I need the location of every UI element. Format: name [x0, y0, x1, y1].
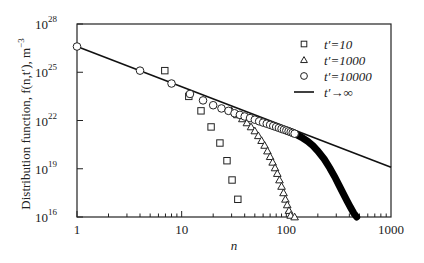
legend-label: t′=10	[324, 37, 353, 52]
circle-marker	[199, 97, 207, 105]
legend-label: t′=10000	[324, 69, 372, 84]
legend-item: t′=1000	[301, 53, 366, 68]
legend-label: t′→∞	[324, 85, 353, 100]
circle-marker	[168, 80, 176, 88]
y-axis-title: Distribution function, f(n,t′), m−3	[16, 38, 33, 210]
circle-marker	[301, 73, 308, 80]
series-square	[162, 67, 241, 202]
y-tick-label: 1028	[35, 14, 58, 32]
y-tick-label: 1022	[35, 111, 57, 129]
circle-marker	[136, 67, 144, 75]
triangle-marker	[301, 57, 308, 63]
y-tick-label: 1019	[35, 159, 58, 177]
square-marker	[217, 140, 223, 146]
triangle-marker	[276, 176, 284, 183]
y-axis-title-sup: −3	[16, 38, 26, 48]
circle-marker	[186, 90, 194, 98]
legend-item: t′=10000	[301, 69, 373, 84]
square-marker	[208, 124, 214, 130]
x-tick-label: 1	[74, 222, 81, 237]
circle-marker	[218, 105, 226, 113]
legend: t′=10t′=1000t′=10000t′→∞	[294, 37, 372, 100]
y-tick-label: 1016	[35, 207, 58, 225]
x-tick-label: 1000	[378, 222, 404, 237]
square-marker	[229, 177, 235, 183]
y-tick-label: 1025	[35, 62, 58, 80]
triangle-marker	[278, 183, 286, 190]
circle-marker	[73, 43, 81, 51]
svg-text:Distribution function, f(n,t′): Distribution function, f(n,t′), m−3	[16, 38, 33, 210]
y-axis-title-text: Distribution function, f(n,t′), m	[18, 48, 33, 210]
square-marker	[301, 41, 307, 47]
series-circle	[73, 43, 298, 138]
legend-item: t′=10	[301, 37, 353, 52]
triangle-marker	[282, 196, 290, 203]
circle-marker	[291, 130, 299, 138]
x-tick-label: 100	[277, 222, 297, 237]
square-marker	[162, 67, 168, 73]
chart: 1101001000 10161019102210251028 t′=10t′=…	[0, 0, 424, 263]
legend-label: t′=1000	[324, 53, 366, 68]
x-axis-title: n	[231, 238, 238, 253]
circle-marker	[209, 101, 217, 109]
square-marker	[235, 196, 241, 202]
triangle-marker	[280, 189, 288, 196]
x-tick-label: 10	[175, 222, 188, 237]
square-marker	[198, 108, 204, 114]
square-marker	[224, 158, 230, 164]
legend-item: t′→∞	[294, 85, 353, 100]
dense-circle-tail	[295, 134, 357, 217]
